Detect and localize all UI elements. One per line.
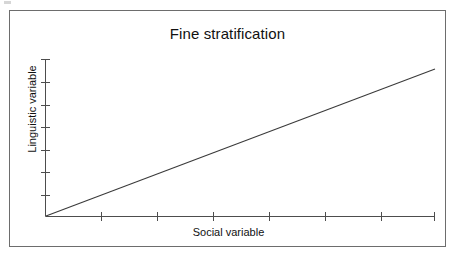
y-axis-label: Linguistic variable xyxy=(26,54,38,164)
figure-frame: Fine stratification xyxy=(9,10,446,247)
plot-svg xyxy=(10,11,447,248)
plot-area: Linguistic variable Social variable xyxy=(10,11,447,248)
scan-artifact xyxy=(4,1,11,4)
trend-line xyxy=(46,69,435,216)
x-axis-label: Social variable xyxy=(10,226,447,238)
